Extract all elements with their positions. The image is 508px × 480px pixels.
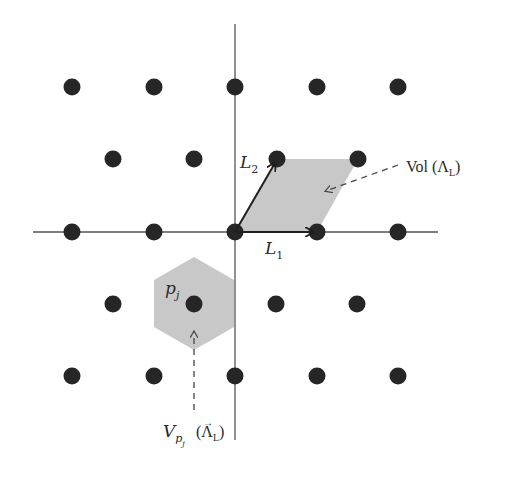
lattice-point bbox=[146, 224, 163, 241]
lattice-point bbox=[64, 79, 81, 96]
lattice-point bbox=[227, 368, 244, 385]
label-l1: L1 bbox=[264, 238, 283, 262]
lattice-point bbox=[105, 296, 122, 313]
lattice-point bbox=[186, 151, 203, 168]
lattice-point bbox=[390, 79, 407, 96]
lattice-point bbox=[105, 151, 122, 168]
svg-text:Vpj: Vpj bbox=[163, 421, 185, 448]
lattice-point bbox=[349, 296, 366, 313]
lattice-point bbox=[186, 296, 203, 313]
label-volume: Vol (ΛL) bbox=[406, 158, 460, 178]
lattice-point bbox=[350, 151, 367, 168]
lattice-point bbox=[268, 296, 285, 313]
lattice-point bbox=[309, 368, 326, 385]
lattice-point bbox=[390, 224, 407, 241]
lattice-point bbox=[146, 79, 163, 96]
label-l2: L2 bbox=[239, 152, 258, 176]
lattice-diagram: L2 L1 pj Vol (ΛL) Vpj (ΛL) → bbox=[0, 0, 508, 480]
vector-arrow-accent: → bbox=[203, 417, 213, 428]
label-voronoi-cell: Vpj (ΛL) → bbox=[163, 417, 224, 448]
lattice-point bbox=[269, 151, 286, 168]
lattice-point bbox=[227, 79, 244, 96]
lattice-point bbox=[146, 368, 163, 385]
lattice-point bbox=[390, 368, 407, 385]
lattice-point bbox=[64, 368, 81, 385]
lattice-point bbox=[309, 79, 326, 96]
lattice-point bbox=[64, 224, 81, 241]
